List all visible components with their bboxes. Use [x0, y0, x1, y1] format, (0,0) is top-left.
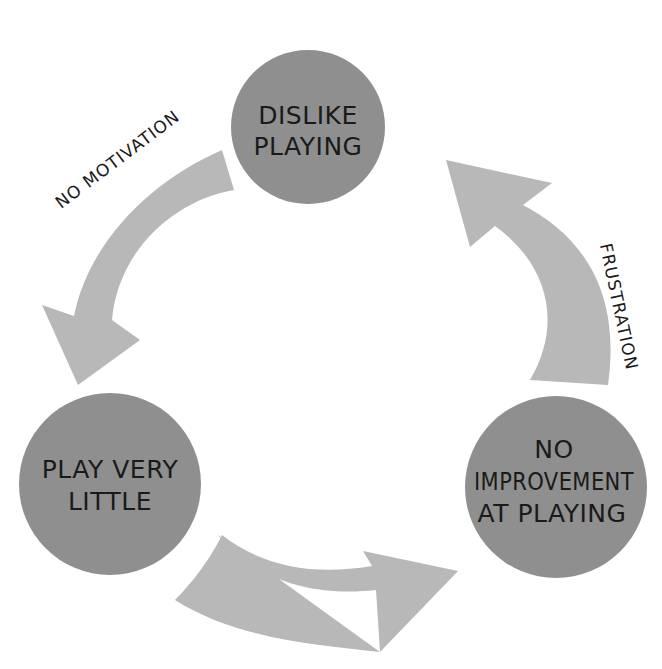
node-dislike-label-line2: PLAYING — [254, 132, 363, 161]
arrow-play-little-to-no-improvement — [175, 535, 458, 652]
node-dislike-label-line1: DISLIKE — [258, 101, 357, 130]
node-no-improvement-label-line3: AT PLAYING — [478, 499, 627, 528]
node-play-very-little — [19, 393, 201, 575]
cycle-diagram: DISLIKE PLAYING PLAY VERY LITTLE NO IMPR… — [0, 0, 662, 669]
node-no-improvement-label-line2: IMPROVEMENT — [474, 467, 634, 496]
node-play-little-label-line2: LITTLE — [68, 487, 152, 516]
node-no-improvement-label-line1: NO — [534, 435, 573, 464]
node-play-little-label-line1: PLAY VERY — [42, 455, 179, 484]
arrow-no-improvement-to-dislike — [446, 160, 611, 385]
